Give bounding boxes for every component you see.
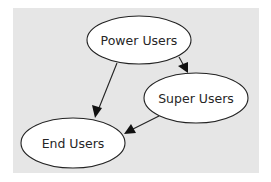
edge-power-to-end: [99, 63, 117, 108]
edge-super-to-end: [133, 116, 159, 129]
node-power-users-label: Power Users: [101, 33, 178, 48]
node-super-users: Super Users: [144, 73, 248, 123]
user-hierarchy-diagram: Power Users Super Users End Users: [0, 0, 271, 182]
node-power-users: Power Users: [87, 16, 191, 64]
node-end-users: End Users: [21, 118, 125, 168]
node-end-users-label: End Users: [42, 136, 105, 151]
arrowhead-power-to-end-icon: [92, 105, 102, 118]
node-super-users-label: Super Users: [158, 91, 234, 106]
